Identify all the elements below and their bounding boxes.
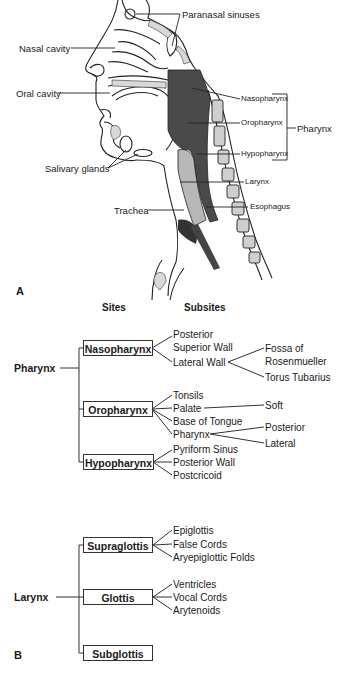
subsite-ventricles: Ventricles (173, 578, 216, 591)
subsite-aryepiglottic-folds: Aryepiglottic Folds (173, 551, 255, 564)
root-pharynx: Pharynx (14, 362, 55, 374)
subsite-rosenmueller: Rosenmueller (265, 355, 327, 368)
subsite-superior-wall: Superior Wall (173, 341, 233, 354)
subsite-epiglottis: Epiglottis (173, 524, 214, 537)
subsite-fossa-of: Fossa of (265, 342, 303, 355)
subsite-lateral-pharynx: Lateral (265, 437, 296, 450)
site-box-supraglottis: Supraglottis (83, 537, 153, 553)
subsite-soft: Soft (265, 399, 283, 412)
subsite-pyriform-sinus: Pyriform Sinus (173, 443, 238, 456)
panel-letter-b: B (14, 649, 22, 661)
subsite-false-cords: False Cords (173, 538, 227, 551)
subsite-palate: Palate (173, 402, 201, 415)
subsite-posterior-pharynx: Posterior (265, 421, 305, 434)
subsite-vocal-cords: Vocal Cords (173, 591, 227, 604)
subsite-postcricoid: Postcricoid (173, 469, 222, 482)
site-box-glottis: Glottis (83, 589, 153, 605)
subsite-tonsils: Tonsils (173, 389, 204, 402)
site-box-nasopharynx: Nasopharynx (83, 340, 153, 356)
subsite-lateral-wall: Lateral Wall (173, 356, 225, 369)
site-box-subglottis: Subglottis (83, 645, 153, 661)
subsite-base-of-tongue: Base of Tongue (173, 415, 242, 428)
site-box-hypopharynx: Hypopharynx (83, 454, 154, 470)
subsite-torus-tubarius: Torus Tubarius (265, 371, 331, 384)
subsite-posterior: Posterior (173, 328, 213, 341)
subsite-arytenoids: Arytenoids (173, 604, 220, 617)
site-box-oropharynx: Oropharynx (83, 401, 153, 417)
subsite-posterior-wall: Posterior Wall (173, 456, 235, 469)
root-larynx: Larynx (14, 591, 48, 603)
tree-connectors (0, 0, 342, 677)
subsite-pharynx: Pharynx (173, 428, 210, 441)
